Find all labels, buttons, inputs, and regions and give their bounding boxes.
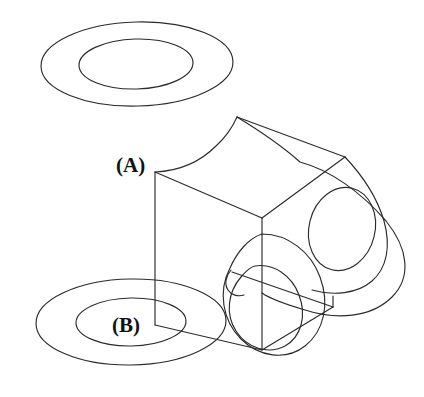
center-boss-chord-line — [232, 272, 333, 307]
isometric-assembly-figure: (A) (B) — [0, 0, 424, 397]
block-top-face-front-left-edge — [155, 172, 262, 218]
upper-annulus-part — [40, 20, 234, 109]
main-block-part — [155, 117, 345, 350]
center-boss-inner-circle — [229, 266, 302, 350]
block-top-face-right-edge — [237, 117, 345, 157]
center-boss-outer-circle — [223, 234, 325, 355]
label-a-text: (A) — [116, 153, 145, 177]
block-top-face-back-curve — [155, 117, 237, 172]
center-boss-part — [223, 234, 333, 355]
diagram-root: (A) (B) — [0, 0, 424, 397]
block-top-face-front-right-edge — [262, 157, 345, 218]
center-boss-notch-arc — [226, 270, 244, 296]
block-bottom-front-right-edge — [262, 307, 333, 350]
upper-annulus-outer-ellipse — [40, 20, 234, 109]
upper-annulus-inner-ellipse — [78, 38, 193, 91]
right-lug-hole-ellipse — [300, 180, 384, 277]
label-b-text: (B) — [112, 313, 140, 337]
